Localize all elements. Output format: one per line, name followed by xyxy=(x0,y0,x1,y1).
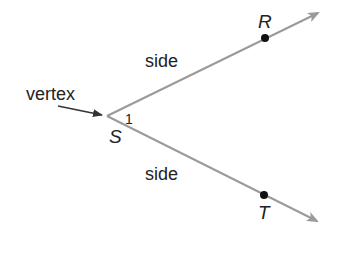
point-r xyxy=(261,34,269,42)
label-r: R xyxy=(258,11,272,32)
angle-number: 1 xyxy=(125,111,133,127)
label-t: T xyxy=(258,202,271,223)
vertex-label: vertex xyxy=(26,84,75,104)
ray-sr xyxy=(107,13,318,116)
angle-diagram: R T S 1 side side vertex xyxy=(0,0,338,259)
label-s: S xyxy=(109,126,122,147)
side-label-upper: side xyxy=(145,51,178,71)
vertex-callout-arrow xyxy=(58,106,102,115)
ray-st xyxy=(107,116,317,221)
point-t xyxy=(260,191,268,199)
angle-svg: R T S 1 side side vertex xyxy=(0,0,338,259)
side-label-lower: side xyxy=(145,164,178,184)
